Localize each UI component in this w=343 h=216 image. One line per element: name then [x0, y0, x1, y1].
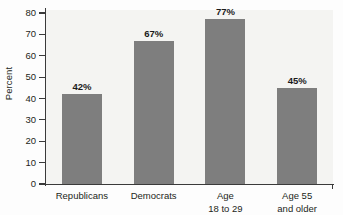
- x-axis-category-label: Age18 to 29: [208, 190, 242, 215]
- x-axis-label-line: and older: [277, 203, 317, 216]
- x-axis-label-line: Democrats: [131, 190, 177, 203]
- bar: [134, 41, 174, 184]
- bar: [62, 94, 102, 184]
- x-axis-label-line: Age 55: [277, 190, 317, 203]
- y-axis-tick: [39, 12, 45, 13]
- x-axis-label-line: Republicans: [56, 190, 108, 203]
- bar: [205, 19, 245, 184]
- bar-value-label: 67%: [144, 28, 163, 39]
- y-axis-tick: [39, 55, 45, 56]
- y-axis-tick-label: 80: [2, 8, 36, 18]
- x-axis-category-label: Republicans: [56, 190, 108, 203]
- x-axis-category-label: Democrats: [131, 190, 177, 203]
- y-axis-tick-label: 30: [2, 115, 36, 125]
- bar-value-label: 77%: [216, 6, 235, 17]
- x-axis-end-tick: [332, 184, 333, 189]
- y-axis-title: Percent: [3, 54, 14, 114]
- y-axis-tick-label: 10: [2, 158, 36, 168]
- y-axis-tick: [39, 119, 45, 120]
- x-axis-category-label: Age 55and older: [277, 190, 317, 215]
- y-axis-tick: [39, 162, 45, 163]
- bar: [277, 88, 317, 184]
- x-axis-label-line: Age: [208, 190, 242, 203]
- y-axis-tick-label: 70: [2, 30, 36, 40]
- y-axis-tick: [39, 98, 45, 99]
- bar-value-label: 45%: [288, 75, 307, 86]
- y-axis-tick-label: 20: [2, 137, 36, 147]
- y-axis-tick: [39, 77, 45, 78]
- bar-chart-figure: 01020304050607080 Percent 42%67%77%45% R…: [0, 0, 343, 215]
- y-axis-tick: [39, 183, 45, 184]
- bar-value-label: 42%: [73, 81, 92, 92]
- y-axis-line: [45, 8, 46, 186]
- y-axis-tick: [39, 141, 45, 142]
- y-axis-tick: [39, 34, 45, 35]
- x-axis-label-line: 18 to 29: [208, 203, 242, 216]
- y-axis-tick-label: 0: [2, 179, 36, 189]
- x-axis-line: [45, 184, 334, 185]
